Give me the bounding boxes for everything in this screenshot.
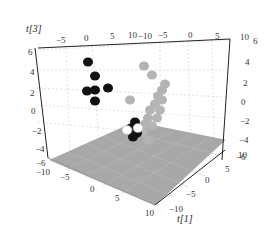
svg-text:t[3]: t[3] — [26, 23, 42, 34]
data-point — [147, 71, 157, 80]
svg-text:5: 5 — [115, 193, 120, 203]
svg-text:10: 10 — [240, 32, 250, 42]
data-point — [90, 97, 100, 106]
svg-text:5: 5 — [215, 31, 220, 41]
data-point — [145, 106, 155, 115]
data-point — [147, 122, 157, 131]
svg-text:6: 6 — [253, 36, 258, 46]
svg-text:0: 0 — [241, 97, 246, 107]
svg-text:2: 2 — [30, 88, 35, 98]
svg-text:−5: −5 — [186, 189, 196, 199]
data-point — [143, 136, 153, 145]
svg-text:4: 4 — [245, 57, 250, 67]
svg-text:4: 4 — [30, 67, 35, 77]
svg-text:−2: −2 — [32, 126, 42, 136]
3d-scatter-plot: −5 0 5 10 −10 −5 0 5 10 t[3] 6 4 2 0 −2 … — [0, 0, 271, 235]
data-point — [157, 96, 167, 105]
data-point — [83, 58, 93, 67]
data-point — [125, 96, 135, 105]
svg-text:10: 10 — [128, 30, 138, 40]
svg-text:−10: −10 — [36, 167, 51, 177]
data-point — [139, 62, 149, 71]
svg-text:10: 10 — [145, 208, 155, 218]
svg-text:0: 0 — [205, 175, 210, 185]
svg-text:5: 5 — [225, 164, 230, 174]
svg-text:t[1]: t[1] — [177, 213, 193, 224]
svg-text:−2: −2 — [240, 116, 250, 126]
data-point — [122, 126, 132, 135]
data-point — [152, 114, 162, 123]
svg-text:0: 0 — [84, 33, 89, 43]
svg-text:0: 0 — [188, 30, 193, 40]
svg-text:6: 6 — [28, 47, 33, 57]
left-z-ticks: t[3] 6 4 2 0 −2 −4 −6 — [26, 23, 46, 168]
data-point — [90, 86, 100, 95]
svg-text:0: 0 — [31, 106, 36, 116]
svg-text:−5: −5 — [56, 35, 66, 45]
svg-text:−10: −10 — [138, 31, 153, 41]
svg-text:0: 0 — [90, 184, 95, 194]
svg-text:5: 5 — [110, 31, 115, 41]
svg-text:−4: −4 — [239, 135, 249, 145]
data-point — [103, 84, 113, 93]
data-point — [155, 106, 165, 115]
svg-text:10: 10 — [238, 150, 248, 160]
data-point — [133, 124, 143, 133]
svg-text:−5: −5 — [158, 30, 168, 40]
svg-text:2: 2 — [243, 78, 248, 88]
right-z-ticks: 6 4 2 0 −2 −4 −6 — [236, 36, 258, 162]
data-point — [90, 72, 100, 81]
svg-text:−4: −4 — [35, 144, 45, 154]
svg-text:−5: −5 — [60, 172, 70, 182]
